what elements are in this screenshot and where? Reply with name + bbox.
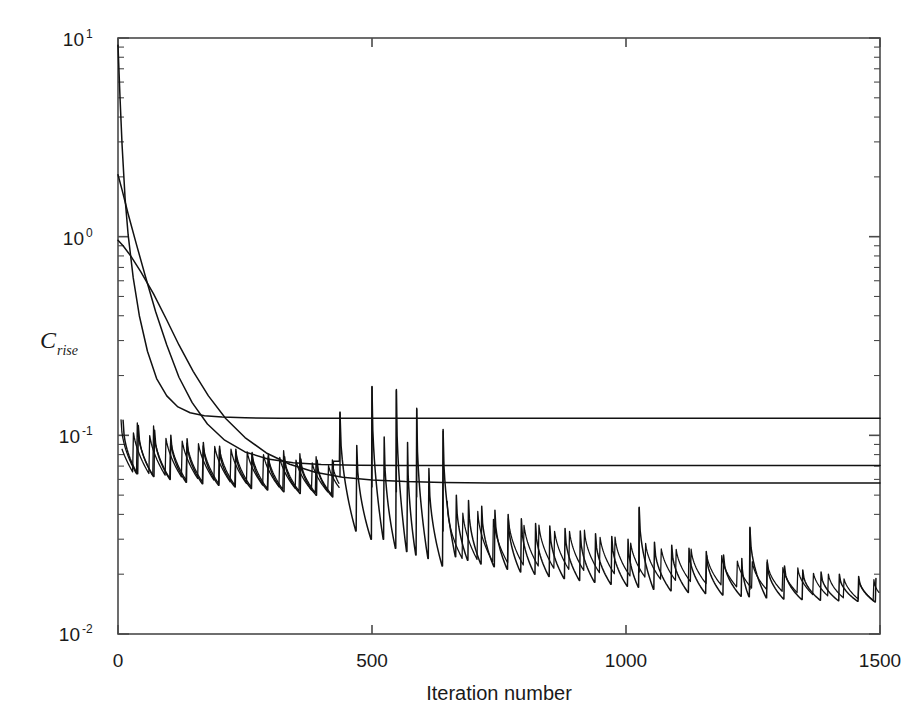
curve-converged-plateau-high [118,45,880,418]
y-tick-mantissa: 10 [63,29,84,50]
curve-sawtooth-dense-band-3 [447,501,879,600]
x-tick-label-1000: 1000 [605,650,647,671]
y-axis-title-base: C [40,327,57,353]
x-axis-title: Iteration number [426,682,572,704]
x-tick-label-500: 500 [356,650,388,671]
y-tick-mantissa: 10 [63,228,84,249]
curve-oscillating-sawtooth [123,387,876,602]
y-tick-exponent: -1 [82,424,93,438]
data-curves [118,45,880,602]
y-tick-mantissa: 10 [59,426,80,447]
y-tick-label-10e1: 10 1 [63,27,93,50]
line-chart: 10 1 10 0 10 -1 10 -2 0 500 1000 1500 It [0,0,917,717]
y-tick-mantissa: 10 [59,624,80,645]
y-tick-labels: 10 1 10 0 10 -1 10 -2 [59,27,93,645]
x-tick-labels: 0 500 1000 1500 [113,650,901,671]
curve-converged-plateau-mid [118,175,880,466]
y-tick-label-10e-2: 10 -2 [59,622,93,645]
y-tick-exponent: -2 [82,622,93,636]
y-tick-label-10e-1: 10 -1 [59,424,93,447]
y-axis-title-subscript: rise [57,343,78,358]
curve-converged-plateau-low [118,240,880,483]
x-tick-label-0: 0 [113,650,124,671]
y-tick-exponent: 1 [86,27,93,41]
y-tick-exponent: 0 [86,226,93,240]
y-tick-label-10e0: 10 0 [63,226,93,249]
y-axis-title: C rise [40,327,78,358]
figure-container: 10 1 10 0 10 -1 10 -2 0 500 1000 1500 It [0,0,917,717]
x-tick-label-1500: 1500 [859,650,901,671]
